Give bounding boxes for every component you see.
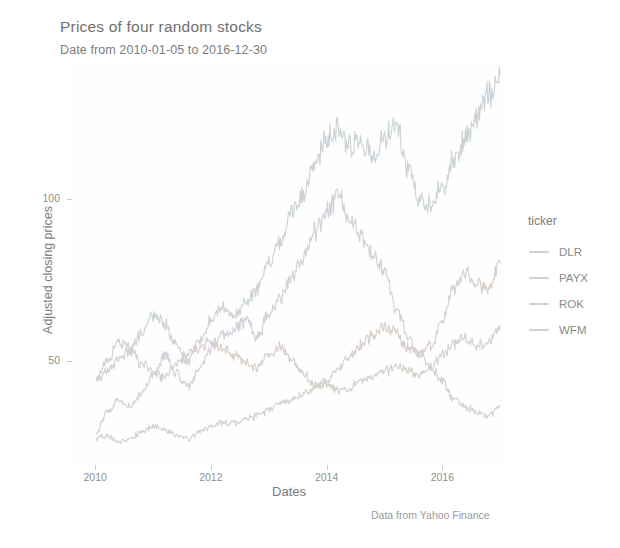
legend-items: DLRPAYXROKWFM xyxy=(528,239,588,343)
legend-key-icon xyxy=(528,272,550,284)
x-axis-label: Dates xyxy=(72,484,506,499)
legend-item-payx[interactable]: PAYX xyxy=(528,265,588,291)
plot-panel xyxy=(72,62,506,465)
page-title: Prices of four random stocks xyxy=(60,18,262,36)
legend: ticker DLRPAYXROKWFM xyxy=(528,214,588,343)
y-tick-label: 50 xyxy=(26,354,60,366)
legend-item-label: WFM xyxy=(559,324,586,336)
x-tick-label: 2012 xyxy=(188,471,234,483)
line-series-payx xyxy=(96,325,500,443)
chart-page: Prices of four random stocks Date from 2… xyxy=(0,0,620,548)
x-tick-mark xyxy=(211,465,212,470)
x-tick-label: 2014 xyxy=(304,471,350,483)
legend-key-icon xyxy=(528,246,550,258)
legend-key-icon xyxy=(528,324,550,336)
legend-item-label: DLR xyxy=(559,246,582,258)
line-series-rok xyxy=(96,67,500,381)
legend-title: ticker xyxy=(528,214,588,228)
y-tick-label: 100 xyxy=(26,192,60,204)
x-tick-mark xyxy=(442,465,443,470)
x-tick-mark xyxy=(95,465,96,470)
legend-item-dlr[interactable]: DLR xyxy=(528,239,588,265)
legend-item-rok[interactable]: ROK xyxy=(528,291,588,317)
legend-item-label: ROK xyxy=(559,298,584,310)
page-subtitle: Date from 2010-01-05 to 2016-12-30 xyxy=(60,43,267,57)
x-tick-label: 2016 xyxy=(419,471,465,483)
legend-key-icon xyxy=(528,298,550,310)
legend-item-label: PAYX xyxy=(559,272,588,284)
series-lines xyxy=(72,62,506,465)
x-tick-mark xyxy=(327,465,328,470)
legend-item-wfm[interactable]: WFM xyxy=(528,317,588,343)
chart-caption: Data from Yahoo Finance xyxy=(371,509,490,521)
x-tick-label: 2010 xyxy=(72,471,118,483)
